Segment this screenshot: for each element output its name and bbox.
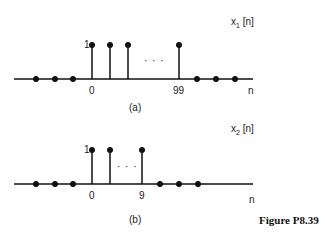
amplitude-label-a: 1 [84,40,90,50]
signal-label-b: x2 [n] [231,124,254,136]
unit-sample [125,42,130,47]
tick-label-0-a: 0 [89,86,95,96]
unit-sample [139,147,144,152]
zero-sample [33,181,38,186]
tick-label-9-b: 9 [139,191,145,201]
axis-label-n-a: n [248,86,254,96]
zero-sample [176,181,181,186]
axis-label-n-b: n [249,195,255,205]
zero-sample [194,76,199,81]
tick-label-99-a: 99 [173,86,184,96]
unit-sample [107,42,112,47]
zero-sample [52,76,57,81]
zero-sample [213,76,218,81]
panel-a-plot [14,42,253,81]
signal-label-a: x1 [n] [231,17,254,29]
ellipsis-a: · · · [144,56,165,66]
unit-sample [89,147,94,152]
unit-sample [176,42,181,47]
zero-sample [195,181,200,186]
unit-sample [89,42,94,47]
zero-sample [52,181,57,186]
zero-sample [70,181,75,186]
tick-label-0-b: 0 [89,191,95,201]
ellipsis-b: · · · [117,162,138,172]
zero-sample [70,76,75,81]
amplitude-label-b: 1 [84,145,90,155]
caption-b: (b) [129,214,141,225]
zero-sample [232,76,237,81]
stem-plots [0,0,325,235]
unit-sample [107,147,112,152]
zero-sample [157,181,162,186]
figure-label: Figure P8.39 [259,214,319,226]
zero-sample [33,76,38,81]
caption-a: (a) [129,102,141,113]
